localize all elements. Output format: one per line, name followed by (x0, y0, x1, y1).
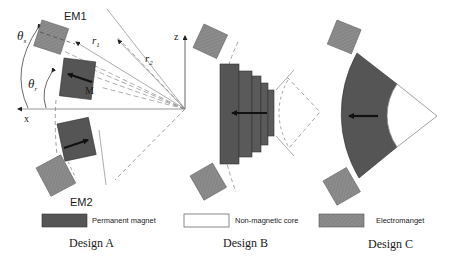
dashed-arc-inner (279, 80, 288, 146)
m-label: M (85, 85, 94, 96)
dashed-radial (100, 87, 185, 109)
z-axis-label: z (174, 31, 179, 42)
theta-r-arc (44, 72, 52, 108)
x-axis-label: x (24, 113, 29, 124)
r1-label: r1 (92, 34, 100, 49)
caption-design-a: Design A (69, 236, 114, 250)
legend: Permanent magnet Non-magnetic core Elect… (42, 214, 425, 227)
legend-item-electromagnet: Electromanget (319, 214, 425, 227)
legend-swatch-non-magnetic-core (184, 214, 229, 227)
magnet-designs-diagram: z x θs θr r1 r2 EM1 M (0, 0, 450, 261)
legend-label: Electromanget (376, 216, 425, 225)
design-a: z x θs θr r1 r2 EM1 M (17, 9, 185, 208)
legend-label: Permanent magnet (92, 216, 157, 225)
em1-label: EM1 (64, 10, 87, 22)
legend-item-non-magnetic-core: Non-magnetic core (184, 214, 298, 227)
legend-label: Non-magnetic core (235, 216, 298, 225)
dashed-wedge (287, 77, 320, 148)
electromagnet-em2 (36, 155, 76, 196)
r2-line (118, 40, 185, 109)
radial-solid (99, 130, 106, 185)
legend-item-permanent-magnet: Permanent magnet (42, 214, 157, 227)
radial-solid (276, 70, 294, 90)
legend-swatch-electromagnet (319, 214, 364, 227)
electromagnet-bottom (323, 168, 360, 206)
theta-s-label: θs (17, 28, 26, 45)
stepped-magnet-layer-5 (268, 90, 274, 136)
electromagnet-top (327, 20, 361, 54)
caption-design-b: Design B (223, 236, 268, 250)
r2-label: r2 (145, 52, 153, 67)
theta-r-label: θr (28, 76, 37, 93)
caption-design-c: Design C (368, 237, 413, 251)
legend-swatch-permanent-magnet (42, 214, 87, 227)
design-b (190, 24, 320, 200)
electromagnet-top (193, 24, 228, 59)
electromagnet-bottom (190, 163, 227, 200)
non-magnetic-core (387, 84, 437, 147)
permanent-magnet-bottom (57, 117, 96, 161)
design-c (323, 20, 437, 205)
em2-label: EM2 (70, 196, 93, 208)
electromagnet-em1 (34, 20, 69, 54)
